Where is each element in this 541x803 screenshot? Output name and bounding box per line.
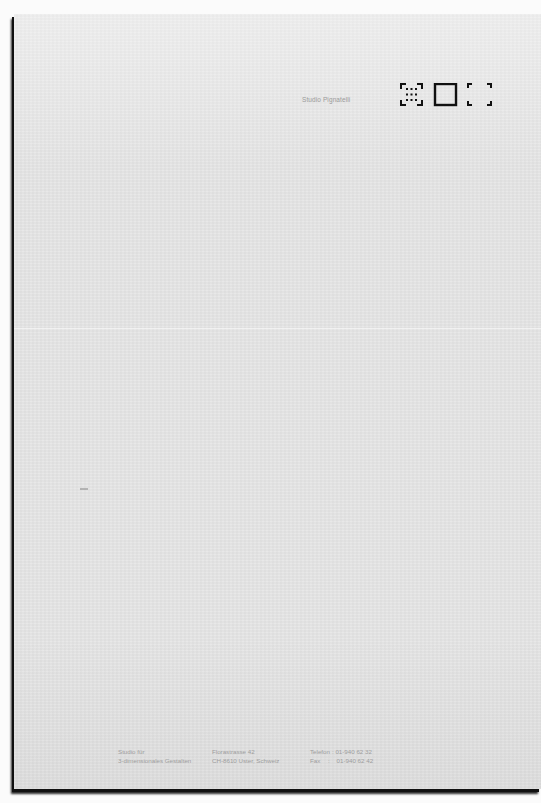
footer-address: Florastrasse 42 CH-8610 Uster, Schweiz [212,747,310,765]
dotted-grid-square-icon [400,83,423,106]
phone-label: Telefon [310,747,330,756]
sender-name: Studio Pignatelli [302,96,350,103]
studio-line-2: 3-dimensionales Gestalten [118,756,212,765]
studio-line-1: Studio für [118,747,212,756]
letterhead-sheet: Studio Pignatelli [14,14,541,789]
letterhead-footer: Studio für 3-dimensionales Gestalten Flo… [118,747,400,765]
photo-stage: Studio Pignatelli [0,0,541,803]
fax-value: 01-940 62 42 [337,756,373,765]
logo-mark [400,83,494,107]
fax-row: Fax: 01-940 62 42 [310,756,400,765]
footer-studio: Studio für 3-dimensionales Gestalten [118,747,212,765]
address-city: CH-8610 Uster, Schweiz [212,756,310,765]
phone-row: Telefon: 01-940 62 32 [310,747,400,756]
address-street: Florastrasse 42 [212,747,310,756]
phone-value: 01-940 62 32 [335,747,371,756]
fold-line [14,328,541,329]
fold-mark [80,488,88,490]
corner-brackets-icon [467,83,492,106]
footer-contact: Telefon: 01-940 62 32 Fax: 01-940 62 42 [310,747,400,765]
fax-label: Fax [310,756,328,765]
colon: : [328,756,337,765]
solid-square-icon [435,84,456,105]
